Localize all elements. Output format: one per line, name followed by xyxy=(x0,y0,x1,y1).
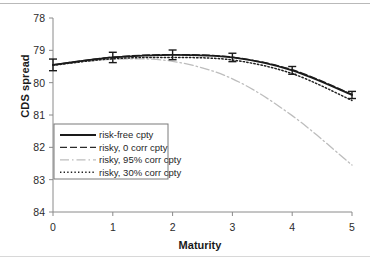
y-tick-marks xyxy=(49,18,53,212)
chart-canvas: 84838281807978 012345 risk-free cptyrisk… xyxy=(0,0,370,259)
y-tick-label: 81 xyxy=(33,109,45,121)
y-tick-label: 83 xyxy=(33,174,45,186)
y-tick-labels: 84838281807978 xyxy=(33,12,45,218)
y-tick-label: 78 xyxy=(33,12,45,24)
x-tick-label: 0 xyxy=(50,221,56,233)
chart-figure: 84838281807978 012345 risk-free cptyrisk… xyxy=(0,0,370,259)
y-tick-label: 82 xyxy=(33,141,45,153)
y-tick-label: 79 xyxy=(33,44,45,56)
legend-label: risky, 0 corr cpty xyxy=(99,142,168,153)
error-bar-layer xyxy=(49,50,356,99)
x-tick-label: 4 xyxy=(289,221,295,233)
legend-label: risk-free cpty xyxy=(99,129,154,140)
x-tick-marks xyxy=(53,212,352,216)
x-tick-label: 1 xyxy=(110,221,116,233)
x-tick-labels: 012345 xyxy=(50,221,355,233)
axis-layer xyxy=(49,18,352,216)
legend-label: risky, 95% corr cpty xyxy=(99,154,181,165)
y-tick-label: 80 xyxy=(33,77,45,89)
x-tick-label: 5 xyxy=(349,221,355,233)
y-tick-label: 84 xyxy=(33,206,45,218)
x-tick-label: 3 xyxy=(229,221,235,233)
series-line xyxy=(53,57,352,100)
y-axis-title: CDS spread xyxy=(19,31,31,141)
chart-legend: risk-free cptyrisky, 0 corr cptyrisky, 9… xyxy=(54,124,181,179)
x-tick-label: 2 xyxy=(170,221,176,233)
x-axis-title: Maturity xyxy=(140,239,260,251)
legend-label: risky, 30% corr cpty xyxy=(99,167,181,178)
